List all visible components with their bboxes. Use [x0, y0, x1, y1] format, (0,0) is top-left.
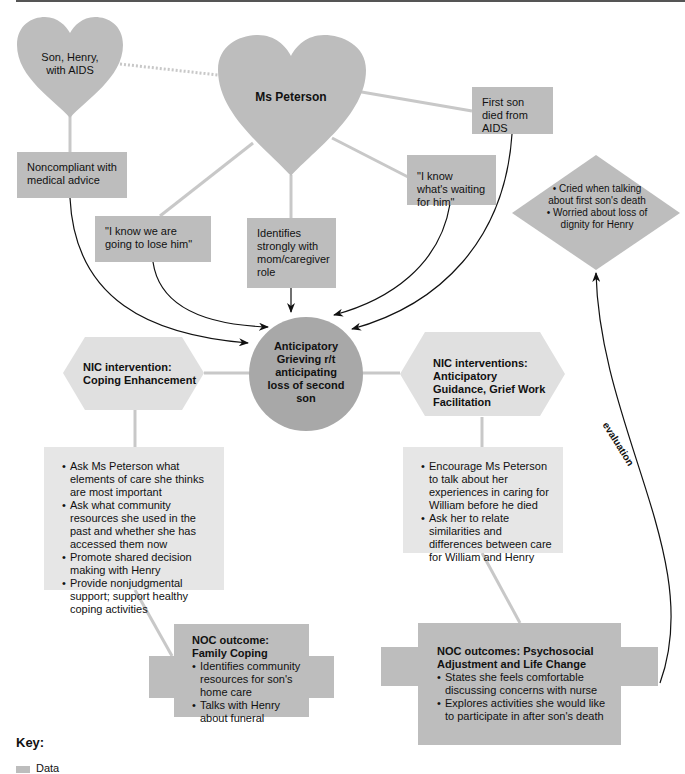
first-son-died-box: First son died from AIDS	[472, 87, 553, 134]
evaluation-arrow	[596, 273, 671, 683]
nic-left-list-box: Ask Ms Peterson what elements of care sh…	[44, 447, 224, 590]
diagnosis-label: Anticipatory Grieving r/t anticipating l…	[265, 340, 347, 405]
noncompliant-box: Noncompliant with medical advice	[17, 152, 127, 198]
nic-right-title: NIC interventions: Anticipatory Guidance…	[433, 357, 553, 409]
peterson-heart: Ms Peterson	[230, 91, 352, 104]
noc-left-title: NOC outcome: Family Coping	[192, 634, 304, 660]
list-item: Provide nonjudgmental support; support h…	[70, 577, 214, 616]
nic-left-list: Ask Ms Peterson what elements of care sh…	[62, 460, 214, 616]
noc-left-list: Identifies community resources for son's…	[192, 660, 304, 725]
henry-heart-line2: with AIDS	[20, 64, 120, 77]
diamond-item: • Worried about loss of dignity for Henr…	[544, 207, 650, 231]
list-item: Ask Ms Peterson what elements of care sh…	[70, 460, 214, 499]
list-item: Ask what community resources she used in…	[70, 499, 214, 551]
henry-heart-line1: Son, Henry,	[20, 51, 120, 64]
list-item: Identifies community resources for son's…	[200, 660, 304, 699]
evaluation-diamond: • Cried when talking about first son's d…	[544, 183, 650, 231]
diamond-item: • Cried when talking about first son's d…	[544, 183, 650, 207]
noc-right-list: States she feels comfortable discussing …	[437, 671, 617, 723]
list-item: States she feels comfortable discussing …	[445, 671, 617, 697]
list-item: Explores activities she would like to pa…	[445, 697, 617, 723]
list-item: Talks with Henry about funeral	[200, 699, 304, 725]
list-item: Ask her to relate similarities and diffe…	[429, 512, 553, 564]
list-item: Promote shared decision making with Henr…	[70, 551, 214, 577]
dotted-relationship-line	[120, 64, 218, 75]
henry-heart: Son, Henry, with AIDS	[20, 51, 120, 77]
noc-right-title: NOC outcomes: Psychosocial Adjustment an…	[437, 645, 617, 671]
key-label-data: Data	[36, 762, 59, 774]
list-item: Encourage Ms Peterson to talk about her …	[429, 460, 553, 512]
identifies-role-box: Identifies strongly with mom/caregiver r…	[247, 218, 336, 288]
nic-right-list-box: Encourage Ms Peterson to talk about her …	[403, 447, 563, 553]
key-swatch-data	[16, 766, 30, 773]
lose-him-box: "I know we are going to lose him"	[95, 216, 211, 262]
key-title: Key:	[16, 735, 44, 750]
nic-right-list: Encourage Ms Peterson to talk about her …	[421, 460, 553, 564]
waiting-for-him-box: "I know what's waiting for him"	[407, 155, 496, 205]
nic-left-title: NIC intervention: Coping Enhancement	[83, 361, 203, 387]
noc-left: NOC outcome: Family Coping Identifies co…	[192, 625, 304, 725]
noc-right: NOC outcomes: Psychosocial Adjustment an…	[437, 645, 617, 723]
